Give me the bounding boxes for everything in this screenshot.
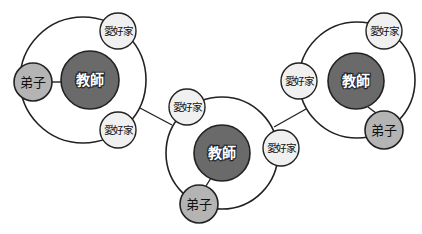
teacher-label: 教師 (76, 72, 104, 88)
connector-left-middle (140, 108, 172, 125)
amateur-node: 愛好家 (100, 13, 136, 49)
amateur-node: 愛好家 (281, 63, 317, 99)
teacher-label: 教師 (208, 145, 236, 161)
disciple-node: 弟子 (14, 63, 52, 101)
group-left: 教師弟子愛好家愛好家 (14, 13, 146, 148)
amateur-label: 愛好家 (267, 142, 297, 154)
disciple-label: 弟子 (20, 75, 46, 90)
amateur-node: 愛好家 (263, 130, 299, 166)
connector-middle-right (274, 109, 306, 127)
group-right: 教師弟子愛好家愛好家 (281, 13, 415, 149)
teacher-disciple-link (368, 107, 376, 113)
group-middle: 教師弟子愛好家愛好家 (166, 89, 299, 223)
amateur-node: 愛好家 (169, 89, 205, 125)
teacher-node: 教師 (194, 125, 250, 181)
disciple-label: 弟子 (371, 123, 397, 138)
amateur-node: 愛好家 (366, 13, 402, 49)
teacher-node: 教師 (328, 53, 384, 109)
amateur-label: 愛好家 (104, 124, 134, 136)
disciple-node: 弟子 (180, 185, 218, 223)
disciple-node: 弟子 (365, 111, 403, 149)
amateur-node: 愛好家 (100, 112, 136, 148)
disciple-label: 弟子 (186, 197, 212, 212)
teacher-label: 教師 (342, 73, 370, 89)
diagram-canvas: 教師弟子愛好家愛好家教師弟子愛好家愛好家教師弟子愛好家愛好家 (0, 0, 422, 234)
amateur-label: 愛好家 (104, 25, 134, 37)
amateur-label: 愛好家 (370, 25, 400, 37)
amateur-label: 愛好家 (285, 75, 315, 87)
amateur-label: 愛好家 (173, 101, 203, 113)
teacher-node: 教師 (61, 51, 119, 109)
